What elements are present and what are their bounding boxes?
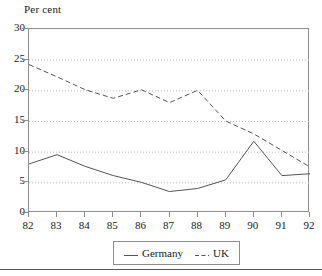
- x-tick-mark: [28, 212, 29, 217]
- x-tick-mark: [253, 212, 254, 217]
- footer-rule: [0, 269, 322, 270]
- series-line-uk: [29, 65, 310, 167]
- line-solid-swatch: [124, 250, 138, 257]
- x-tick-label: 88: [184, 219, 210, 231]
- x-axis-tick-labels: 8283848586878889909192: [28, 219, 309, 233]
- x-axis-tick-marks: [28, 212, 309, 218]
- x-tick-mark: [56, 212, 57, 217]
- chart-legend: GermanyUK: [113, 241, 240, 265]
- x-tick-label: 82: [15, 219, 41, 231]
- x-tick-label: 85: [99, 219, 125, 231]
- x-tick-mark: [140, 212, 141, 217]
- legend-label: Germany: [142, 248, 183, 259]
- legend-entry-uk: UK: [195, 248, 229, 259]
- series-line-germany: [29, 141, 310, 191]
- x-tick-label: 91: [268, 219, 294, 231]
- y-axis-title: Per cent: [24, 3, 61, 15]
- x-tick-label: 92: [296, 219, 322, 231]
- x-tick-label: 83: [43, 219, 69, 231]
- line-dashed-swatch: [195, 250, 209, 257]
- x-tick-label: 84: [71, 219, 97, 231]
- x-tick-mark: [84, 212, 85, 217]
- plot-svg: [29, 29, 310, 213]
- x-tick-mark: [197, 212, 198, 217]
- x-tick-label: 90: [240, 219, 266, 231]
- chart-figure: Per cent 051015202530 828384858687888990…: [0, 0, 322, 276]
- x-tick-label: 87: [156, 219, 182, 231]
- x-tick-mark: [309, 212, 310, 217]
- x-tick-mark: [225, 212, 226, 217]
- x-tick-mark: [281, 212, 282, 217]
- legend-entry-germany: Germany: [124, 248, 183, 259]
- series-lines: [29, 65, 310, 192]
- x-tick-label: 89: [212, 219, 238, 231]
- legend-label: UK: [213, 248, 229, 259]
- x-tick-mark: [169, 212, 170, 217]
- x-tick-mark: [112, 212, 113, 217]
- gridlines: [29, 60, 310, 183]
- plot-area: [28, 28, 309, 212]
- x-tick-label: 86: [127, 219, 153, 231]
